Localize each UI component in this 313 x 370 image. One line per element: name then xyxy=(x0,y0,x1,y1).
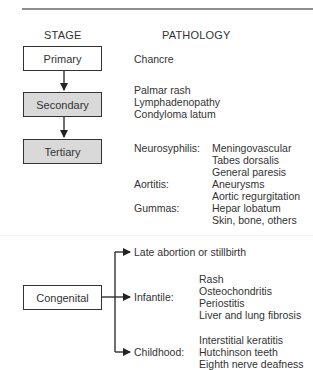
stage-label: Secondary xyxy=(36,99,89,111)
branch-label: Late abortion or stillbirth xyxy=(134,246,246,258)
pathology-item: Periostitis xyxy=(199,297,245,309)
group-label: Gummas: xyxy=(134,202,180,214)
pathology-item: Chancre xyxy=(134,53,174,65)
branch-label: Infantile: xyxy=(134,291,174,303)
pathology-item: Aortic regurgitation xyxy=(212,190,300,202)
stage-label: Congenital xyxy=(36,292,89,304)
branch-label: Childhood: xyxy=(134,346,184,358)
pathology-item: Meningovascular xyxy=(212,142,291,154)
stage-box-congenital: Congenital xyxy=(23,285,102,310)
stage-box-primary: Primary xyxy=(23,46,102,71)
group-label: Neurosyphilis: xyxy=(134,142,200,154)
pathology-item: Rash xyxy=(199,273,224,285)
pathology-item: Skin, bone, others xyxy=(212,214,297,226)
pathology-item: General paresis xyxy=(212,166,286,178)
stage-box-secondary: Secondary xyxy=(23,92,102,117)
stage-box-tertiary: Tertiary xyxy=(23,139,102,164)
pathology-item: Hepar lobatum xyxy=(212,202,281,214)
pathology-item: Aneurysms xyxy=(212,178,265,190)
pathology-item: Tabes dorsalis xyxy=(212,154,279,166)
pathology-item: Liver and lung fibrosis xyxy=(199,309,301,321)
pathology-item: Lymphadenopathy xyxy=(134,96,220,108)
stage-label: Primary xyxy=(44,53,82,65)
pathology-item: Hutchinson teeth xyxy=(199,346,278,358)
pathology-item: Palmar rash xyxy=(134,84,191,96)
stage-label: Tertiary xyxy=(44,146,80,158)
pathology-item: Eighth nerve deafness xyxy=(199,358,304,370)
group-label: Aortitis: xyxy=(134,178,169,190)
pathology-item: Interstitial keratitis xyxy=(199,334,283,346)
pathology-item: Condyloma latum xyxy=(134,108,216,120)
pathology-item: Osteochondritis xyxy=(199,285,272,297)
